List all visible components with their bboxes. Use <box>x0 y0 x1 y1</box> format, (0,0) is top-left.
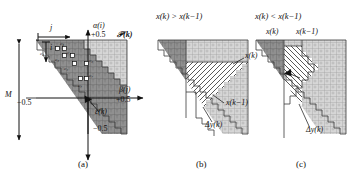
panel-b-label-xk-1: x(k−1) <box>226 99 248 107</box>
panel-a-M-label: M <box>5 91 12 99</box>
figure-canvas: α(i) +0.5 𝒫(k) β(j) +0.5 −0.5 ε(k) j i M… <box>0 0 347 177</box>
cell-label-c1: c₁ <box>67 50 71 55</box>
panel-a-beta-axis-label: β(j) <box>119 86 131 94</box>
panel-a-caption: (a) <box>78 160 88 169</box>
panel-c-label-xk: x(k) <box>266 28 278 36</box>
panel-a-j-index-label: j <box>50 24 52 32</box>
panel-b-label-xk: x(k) <box>245 52 257 60</box>
panel-a-alpha-axis-label: α(i) <box>93 22 105 30</box>
cell-label-c6: c₆ <box>89 58 93 63</box>
cell-label-c8: c₇ <box>89 73 93 78</box>
panel-a-minus-half-tick: −0.5 <box>17 99 32 107</box>
panel-b-title: x(k) > x(k−1) <box>156 12 202 21</box>
panel-a-set-label: 𝒫(k) <box>117 31 132 39</box>
panel-b-label-delta-y: Δy(k) <box>205 121 222 129</box>
cell-label-c2: c₂ <box>40 51 44 56</box>
cell-label-c7: c₇ <box>78 83 82 88</box>
panel-b-caption: (b) <box>196 160 207 169</box>
panel-c-label-xk-1: x(k−1) <box>296 28 318 36</box>
panel-a-beta-value: +0.5 <box>116 96 131 104</box>
panel-b-graphic <box>158 38 250 138</box>
panel-a-alpha-top-value: +0.5 <box>91 31 106 39</box>
panel-c-title: x(k) < x(k−1) <box>255 12 301 21</box>
panel-a-alpha-bottom-value: −0.5 <box>93 125 108 133</box>
panel-c-label-delta-y: Δy(k) <box>306 126 323 134</box>
panel-a-i-index-label: i <box>50 44 52 52</box>
cell-label-c4: c₄ <box>64 66 68 71</box>
panel-a-epsilon-label: ε(k) <box>95 108 107 116</box>
cell-label-c5: c₅ <box>55 57 59 62</box>
cell-label-c3: c₃ <box>60 41 64 46</box>
panel-c-graphic <box>256 38 347 138</box>
panel-c-caption: (c) <box>296 160 306 169</box>
